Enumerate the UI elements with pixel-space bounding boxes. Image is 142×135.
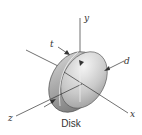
figure-caption: Disk: [0, 118, 142, 129]
disk-diagram: y x z t d: [0, 0, 142, 135]
disk-shape: [39, 43, 117, 121]
diameter-label: d: [124, 56, 130, 66]
y-axis-label: y: [83, 13, 90, 23]
z-axis-back-line: [26, 50, 58, 66]
thickness-label: t: [50, 39, 54, 49]
